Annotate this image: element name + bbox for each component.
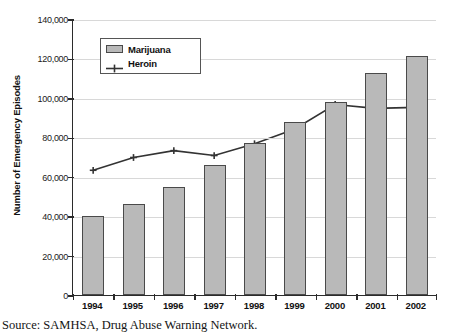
source-note: Source: SAMHSA, Drug Abuse Warning Netwo… [2, 318, 257, 333]
bar-marijuana-2000 [325, 102, 347, 295]
y-axis-tick [68, 59, 74, 60]
y-axis-tick [68, 177, 74, 178]
y-axis-tick-label: 40,000 [42, 212, 68, 222]
legend-label-heroin: Heroin [128, 58, 157, 69]
bar-marijuana-1998 [244, 143, 266, 295]
bar-marijuana-1999 [284, 122, 306, 295]
y-axis-tick-label: 120,000 [38, 54, 68, 64]
chart-figure: Number of Emergency Episodes 020,00040,0… [0, 0, 451, 336]
bar-marijuana-1997 [204, 165, 226, 295]
x-axis-tick-label: 1994 [82, 300, 102, 311]
bar-swatch-icon [106, 45, 123, 53]
heroin-data-point-1996 [170, 147, 177, 154]
x-axis-tick-label: 1996 [163, 300, 183, 311]
heroin-data-point-1995 [130, 154, 137, 161]
legend-item-marijuana: Marijuana [106, 42, 195, 56]
x-axis-tick-label: 1995 [122, 300, 142, 311]
heroin-data-point-1994 [90, 167, 97, 174]
x-axis-tick-label: 1997 [203, 300, 223, 311]
x-axis-tick-label: 1998 [244, 300, 264, 311]
legend-label-marijuana: Marijuana [128, 44, 171, 55]
y-axis-tick [68, 138, 74, 139]
bar-marijuana-1995 [123, 204, 145, 295]
y-axis-tick-label: 140,000 [38, 15, 68, 25]
y-axis-tick [68, 19, 74, 20]
heroin-data-point-1997 [211, 152, 218, 159]
legend-item-heroin: Heroin [106, 56, 195, 70]
y-axis-tick [68, 256, 74, 257]
y-axis-tick [68, 98, 74, 99]
bar-marijuana-2002 [406, 56, 428, 295]
y-axis-tick-label: 80,000 [42, 133, 68, 143]
y-axis-tick [68, 216, 74, 217]
x-axis-tick-label: 2002 [406, 300, 426, 311]
bar-marijuana-2001 [365, 73, 387, 295]
y-axis-tick-labels: 020,00040,00060,00080,000100,000120,0001… [0, 0, 68, 336]
bar-marijuana-1996 [163, 187, 185, 295]
bar-marijuana-1994 [82, 216, 104, 295]
x-axis-tick-label: 2001 [365, 300, 385, 311]
y-axis-tick-label: 60,000 [42, 173, 68, 183]
y-axis-tick-label: 20,000 [42, 252, 68, 262]
x-axis-tick-label: 2000 [325, 300, 345, 311]
line-marker-icon [106, 59, 123, 68]
y-axis-tick-label: 100,000 [38, 94, 68, 104]
chart-legend: Marijuana Heroin [100, 38, 201, 74]
x-axis-tick-labels: 199419951996199719981999200020012002 [72, 300, 436, 320]
gridline [73, 20, 436, 21]
x-axis-tick-label: 1999 [284, 300, 304, 311]
line-marker-glyph [106, 64, 123, 73]
